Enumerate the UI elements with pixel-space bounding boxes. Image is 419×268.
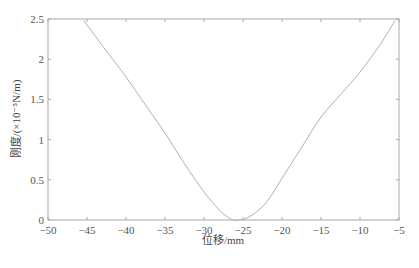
data-series: [84, 21, 395, 221]
y-tick-label: 2.5: [30, 13, 44, 25]
x-tick-label: −10: [351, 224, 369, 236]
x-tick-label: −45: [78, 224, 96, 236]
x-tick-label: −5: [393, 224, 405, 236]
x-tick-label: −40: [117, 224, 135, 236]
y-tick-label: 1: [39, 134, 45, 146]
axes-box: [48, 19, 399, 220]
stiffness-curve: [84, 21, 395, 221]
x-axis-label: 位移/mm: [202, 233, 245, 246]
x-tick-label: −15: [312, 224, 330, 236]
x-tick-label: −20: [273, 224, 291, 236]
y-axis-ticks: 00.511.522.5: [30, 13, 399, 226]
y-tick-label: 0: [39, 214, 45, 226]
y-tick-label: 1.5: [30, 93, 44, 105]
x-axis-ticks: −50−45−40−35−30−25−20−15−10−5: [39, 19, 405, 236]
plot-frame: [48, 19, 399, 220]
y-axis-label: 刚度/(×10⁻⁵N/m): [9, 79, 23, 158]
y-tick-label: 0.5: [30, 174, 44, 186]
x-tick-label: −35: [156, 224, 174, 236]
y-tick-label: 2: [39, 53, 45, 65]
stiffness-displacement-chart: −50−45−40−35−30−25−20−15−10−5 00.511.522…: [0, 0, 419, 268]
